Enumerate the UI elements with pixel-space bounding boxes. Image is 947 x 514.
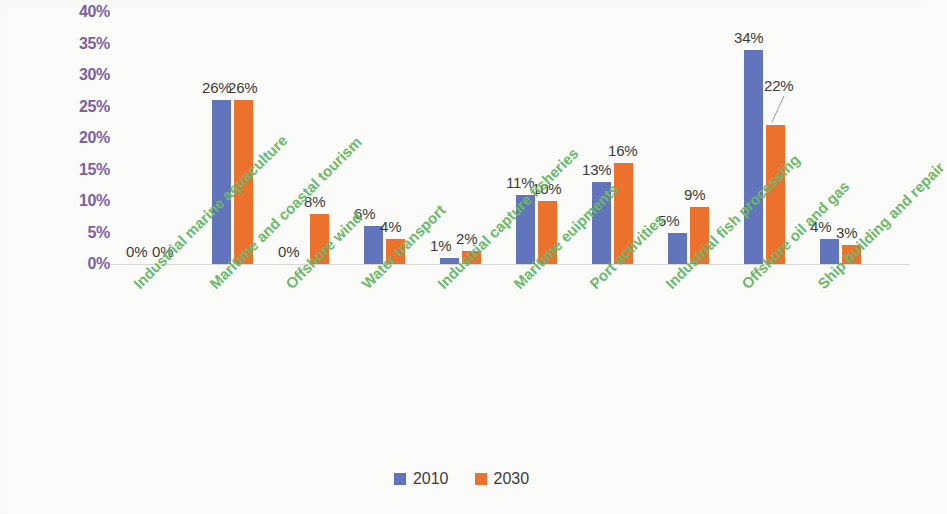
y-axis-tick-label: 25%: [79, 98, 110, 116]
bar-value-label: 16%: [608, 142, 637, 159]
legend-item[interactable]: 2010: [394, 470, 449, 488]
y-axis-tick-label: 10%: [79, 192, 110, 210]
y-axis-tick-label: 15%: [79, 161, 110, 179]
x-axis-category-labels: Industrial marine aquacultureMaritime an…: [0, 268, 923, 468]
bar-value-label: 22%: [764, 77, 793, 94]
legend-swatch-icon: [394, 473, 406, 485]
bar-value-label: 26%: [228, 79, 257, 96]
bar-value-label: 13%: [582, 161, 611, 178]
legend-label: 2030: [494, 470, 530, 488]
legend-label: 2010: [413, 470, 449, 488]
y-axis-tick-label: 20%: [79, 129, 110, 147]
chart-legend: 20102030: [0, 470, 923, 488]
bar-value-label: 0%: [126, 243, 147, 260]
y-axis-tick-label: 30%: [79, 66, 110, 84]
legend-item[interactable]: 2030: [475, 470, 530, 488]
bar-2010[interactable]: [744, 50, 763, 264]
bar-value-label: 1%: [430, 237, 451, 254]
y-axis-tick-label: 35%: [79, 35, 110, 53]
bar-value-label: 9%: [684, 186, 705, 203]
bar-value-label: 4%: [380, 218, 401, 235]
y-axis-tick-label: 5%: [87, 224, 110, 242]
y-axis-tick-label: 40%: [79, 3, 110, 21]
legend-swatch-icon: [475, 473, 487, 485]
bar-value-label: 34%: [734, 29, 763, 46]
bar-value-label: 0%: [278, 243, 299, 260]
y-axis: 0%5%10%15%20%25%30%35%40%: [0, 0, 118, 275]
